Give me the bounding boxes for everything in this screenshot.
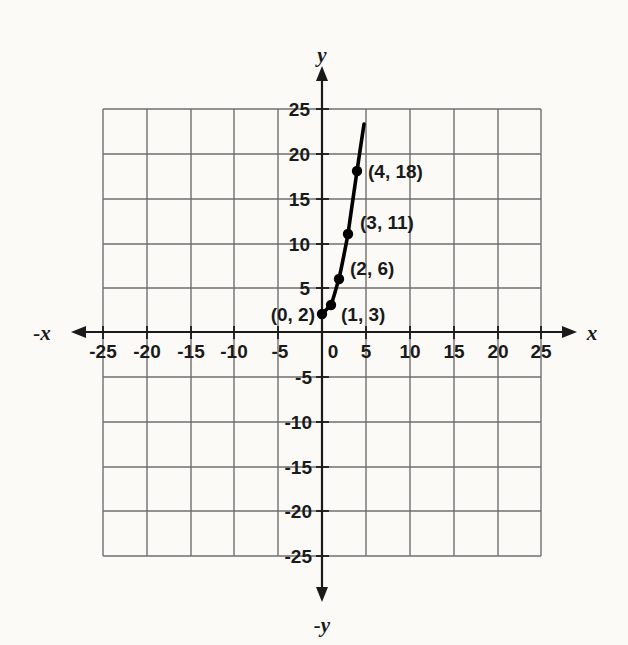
- y-axis-arrow-up: [316, 66, 328, 81]
- x-tick-labels: -25 -20 -15 -10 -5 0 5 10 15 20 25: [89, 341, 552, 362]
- point-label-2-6: (2, 6): [350, 258, 394, 279]
- xtick-label-p20: 20: [487, 341, 508, 362]
- x-axis-arrow-left: [71, 326, 86, 338]
- ytick-label-p10: 10: [289, 234, 310, 255]
- x-axis-arrow-right: [562, 326, 577, 338]
- data-point-2-6[interactable]: [334, 274, 344, 284]
- point-label-4-18: (4, 18): [368, 161, 423, 182]
- axis-names: y -y x -x: [33, 43, 597, 637]
- negative-y-axis-label: -y: [314, 613, 331, 637]
- ytick-label-p25: 25: [289, 99, 311, 120]
- xtick-label-p25: 25: [530, 341, 552, 362]
- xtick-label-n10: -10: [220, 341, 247, 362]
- xtick-label-p5: 5: [361, 341, 372, 362]
- xtick-label-0: 0: [328, 341, 339, 362]
- coordinate-plane-chart: -25 -20 -15 -10 -5 0 5 10 15 20 25 25 20…: [0, 0, 628, 645]
- xtick-label-n20: -20: [133, 341, 160, 362]
- ytick-label-p15: 15: [289, 189, 311, 210]
- x-axis-label: x: [586, 321, 598, 345]
- point-label-1-3: (1, 3): [341, 304, 385, 325]
- negative-x-axis-label: -x: [33, 321, 51, 345]
- graph-page: -25 -20 -15 -10 -5 0 5 10 15 20 25 25 20…: [0, 0, 628, 645]
- data-point-3-11[interactable]: [343, 229, 353, 239]
- ytick-label-n15: -15: [285, 457, 313, 478]
- point-label-3-11: (3, 11): [360, 212, 414, 233]
- ytick-label-n20: -20: [285, 501, 312, 522]
- point-label-0-2: (0, 2): [271, 304, 315, 325]
- y-axis-arrow-down: [316, 587, 328, 602]
- data-curve-group: [322, 124, 364, 314]
- xtick-label-p15: 15: [443, 341, 465, 362]
- xtick-label-n5: -5: [272, 341, 289, 362]
- exponential-curve: [322, 124, 364, 314]
- data-point-1-3[interactable]: [326, 300, 336, 310]
- ytick-label-p20: 20: [289, 144, 310, 165]
- data-point-4-18[interactable]: [352, 166, 362, 176]
- xtick-label-n15: -15: [177, 341, 205, 362]
- ytick-label-n25: -25: [285, 546, 313, 567]
- xtick-label-n25: -25: [89, 341, 117, 362]
- data-point-0-2[interactable]: [317, 309, 327, 319]
- ytick-label-p5: 5: [299, 278, 310, 299]
- ytick-label-n5: -5: [295, 367, 312, 388]
- ytick-label-n10: -10: [285, 412, 312, 433]
- y-axis-label: y: [314, 43, 327, 67]
- xtick-label-p10: 10: [399, 341, 420, 362]
